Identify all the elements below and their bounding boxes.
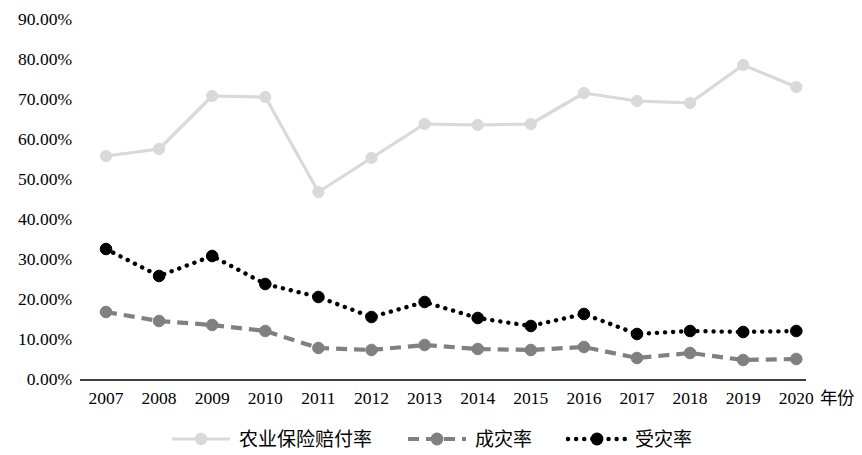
data-point bbox=[419, 339, 431, 351]
data-point bbox=[685, 97, 696, 108]
legend-line-icon bbox=[566, 430, 628, 448]
x-tick-label: 2009 bbox=[195, 388, 230, 409]
data-point bbox=[631, 352, 643, 364]
data-point bbox=[737, 326, 749, 338]
data-point bbox=[525, 118, 536, 129]
legend-label: 农业保险赔付率 bbox=[239, 430, 372, 449]
data-point bbox=[154, 143, 165, 154]
data-point bbox=[366, 152, 377, 163]
data-point bbox=[578, 87, 589, 98]
data-point bbox=[472, 343, 484, 355]
legend-marker bbox=[591, 433, 604, 446]
x-tick-label: 2019 bbox=[726, 388, 761, 409]
x-tick-label: 2011 bbox=[301, 388, 335, 409]
data-point bbox=[313, 186, 324, 197]
chart-legend: 农业保险赔付率成灾率受灾率 bbox=[0, 424, 862, 454]
data-point bbox=[313, 342, 325, 354]
data-point bbox=[100, 150, 111, 161]
data-point bbox=[313, 291, 325, 303]
legend-label: 成灾率 bbox=[475, 430, 532, 449]
legend-swatch-icon bbox=[406, 430, 468, 448]
data-point bbox=[207, 90, 218, 101]
legend-item[interactable]: 成灾率 bbox=[406, 430, 532, 449]
data-point bbox=[684, 347, 696, 359]
data-point bbox=[419, 296, 431, 308]
data-point bbox=[153, 315, 165, 327]
x-tick-label: 2007 bbox=[89, 388, 124, 409]
data-point bbox=[153, 270, 165, 282]
line-chart: 90.00%80.00%70.00%60.00%50.00%40.00%30.0… bbox=[0, 0, 862, 455]
legend-line-icon bbox=[406, 430, 468, 448]
x-tick-label: 2016 bbox=[566, 388, 601, 409]
series-1 bbox=[100, 59, 802, 197]
data-point bbox=[525, 344, 537, 356]
x-tick-label: 2018 bbox=[673, 388, 708, 409]
data-point bbox=[260, 91, 271, 102]
legend-label: 受灾率 bbox=[635, 430, 692, 449]
data-point bbox=[738, 59, 749, 70]
data-point bbox=[525, 320, 537, 332]
data-point bbox=[366, 344, 378, 356]
data-point bbox=[260, 278, 272, 290]
data-point bbox=[472, 119, 483, 130]
data-point bbox=[419, 118, 430, 129]
data-point bbox=[737, 354, 749, 366]
legend-item[interactable]: 受灾率 bbox=[566, 430, 692, 449]
x-tick-label: 2010 bbox=[248, 388, 283, 409]
data-point bbox=[578, 308, 590, 320]
legend-swatch-icon bbox=[566, 430, 628, 448]
plot-area bbox=[0, 0, 862, 400]
legend-line-icon bbox=[170, 430, 232, 448]
plot-svg bbox=[0, 0, 862, 400]
x-axis-title: 年份 bbox=[820, 388, 854, 409]
data-point bbox=[631, 95, 642, 106]
legend-marker bbox=[431, 433, 444, 446]
x-tick-label: 2013 bbox=[407, 388, 442, 409]
data-point bbox=[100, 243, 112, 255]
data-point bbox=[206, 250, 218, 262]
x-tick-label: 2012 bbox=[354, 388, 389, 409]
series-line bbox=[106, 65, 796, 192]
legend-item[interactable]: 农业保险赔付率 bbox=[170, 430, 372, 449]
data-point bbox=[791, 325, 803, 337]
data-point bbox=[100, 306, 112, 318]
data-point bbox=[791, 81, 802, 92]
data-point bbox=[791, 353, 803, 365]
x-tick-label: 2015 bbox=[513, 388, 548, 409]
data-point bbox=[260, 325, 272, 337]
x-tick-label: 2008 bbox=[142, 388, 177, 409]
legend-swatch-icon bbox=[170, 430, 232, 448]
series-2 bbox=[100, 306, 802, 366]
x-axis: 2007200820092010201120122013201420152016… bbox=[0, 388, 862, 414]
data-point bbox=[472, 312, 484, 324]
data-point bbox=[366, 311, 378, 323]
data-point bbox=[206, 319, 218, 331]
data-point bbox=[578, 341, 590, 353]
x-tick-label: 2017 bbox=[620, 388, 655, 409]
x-tick-label: 2020 bbox=[779, 388, 814, 409]
x-tick-label: 2014 bbox=[460, 388, 495, 409]
legend-marker bbox=[195, 433, 207, 445]
data-point bbox=[631, 328, 643, 340]
data-point bbox=[684, 325, 696, 337]
